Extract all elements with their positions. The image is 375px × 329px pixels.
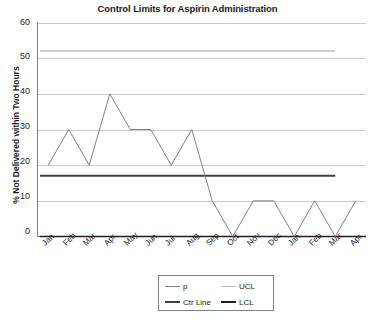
control-chart: Control Limits for Aspirin Administratio…: [0, 0, 375, 329]
legend-swatch-ucl: [221, 286, 236, 287]
legend-item-p: p: [165, 278, 187, 294]
chart-legend: p UCL Ctr Line LCL: [158, 275, 274, 311]
legend-item-ucl: UCL: [221, 278, 255, 294]
gridlines: [38, 24, 366, 202]
legend-swatch-p: [165, 286, 180, 287]
control-limit-lines: [40, 51, 366, 236]
legend-item-ctr-line: Ctr Line: [165, 294, 211, 310]
legend-row-bottom: Ctr Line LCL: [159, 294, 275, 310]
legend-swatch-ctr-line: [165, 301, 180, 303]
legend-item-lcl: LCL: [221, 294, 254, 310]
legend-row-top: p UCL: [159, 278, 275, 294]
legend-label-ucl: UCL: [239, 282, 255, 291]
legend-label-lcl: LCL: [239, 298, 254, 307]
legend-label-ctr-line: Ctr Line: [183, 298, 211, 307]
legend-swatch-lcl: [221, 301, 236, 303]
legend-label-p: p: [183, 282, 187, 291]
